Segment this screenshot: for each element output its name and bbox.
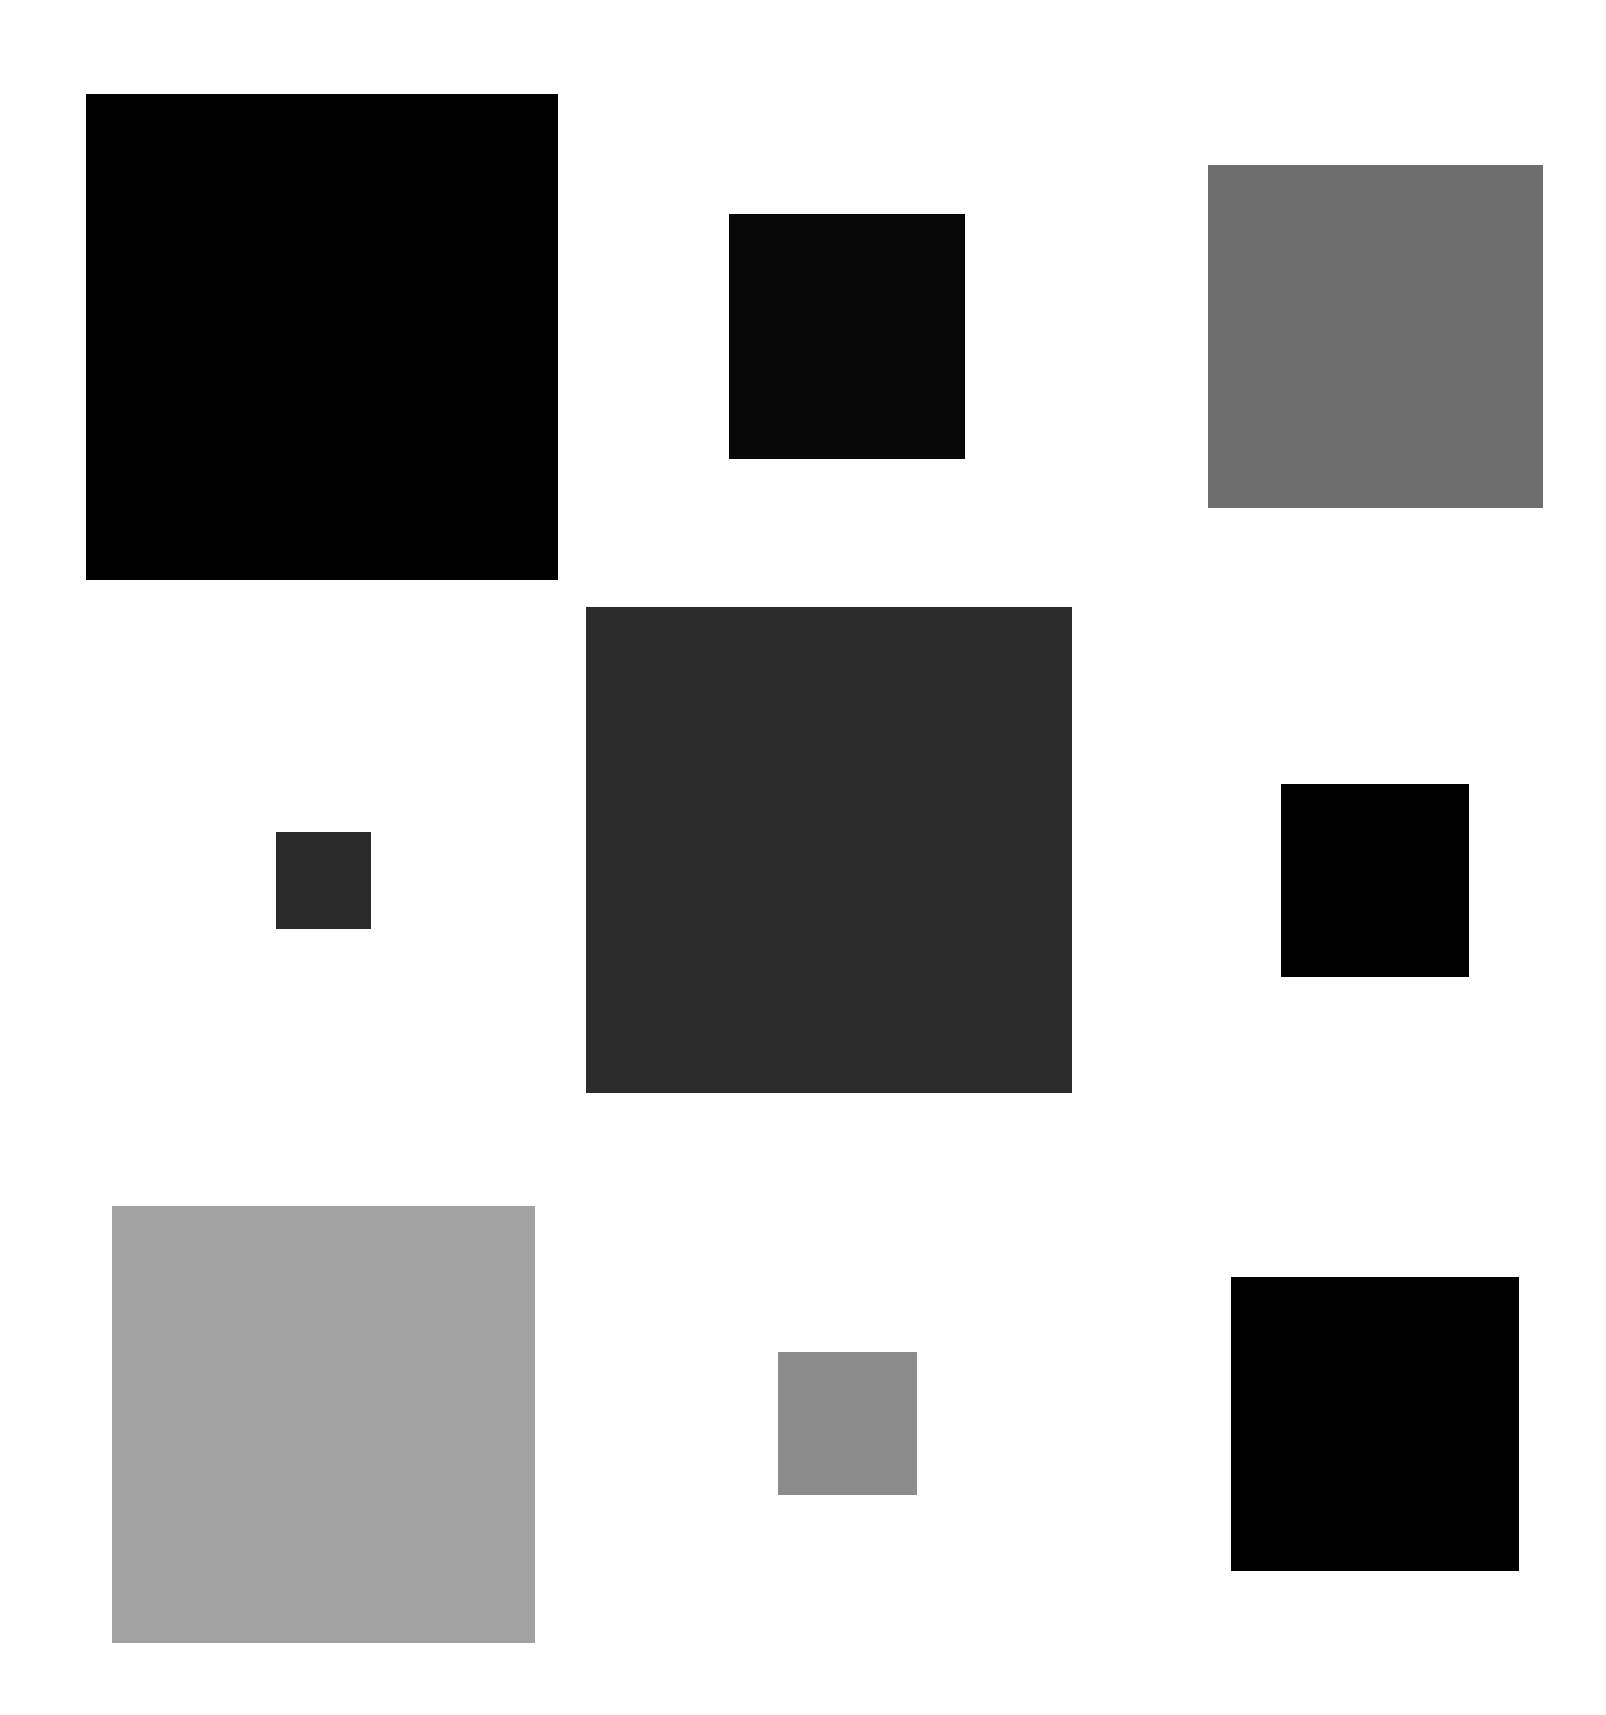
square-bottom-middle [778, 1352, 917, 1495]
square-middle-left [276, 832, 371, 929]
canvas [0, 0, 1606, 1715]
square-top-left [86, 94, 558, 580]
square-top-middle [729, 214, 965, 459]
square-middle-right [1281, 784, 1469, 977]
square-bottom-right [1231, 1277, 1519, 1571]
square-top-right [1208, 165, 1543, 508]
square-center [586, 607, 1072, 1093]
square-bottom-left [112, 1206, 535, 1643]
